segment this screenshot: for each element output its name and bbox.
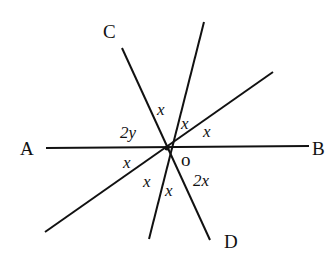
label-C: C — [103, 21, 116, 42]
angle-x-right: x — [202, 122, 211, 141]
angle-diagram: C A B D o x x x 2y x x x 2x — [0, 0, 334, 261]
line-steep — [149, 22, 204, 239]
label-O: o — [181, 149, 191, 170]
angle-x-lower-left: x — [122, 153, 131, 172]
line-shallow — [45, 72, 273, 232]
label-D: D — [224, 231, 238, 252]
line-CD — [122, 48, 210, 240]
angle-x-top: x — [156, 100, 165, 119]
angle-x-lower: x — [142, 172, 151, 191]
angle-x-bottom: x — [164, 181, 173, 200]
label-A: A — [20, 138, 34, 159]
label-B: B — [312, 138, 325, 159]
angle-x-upper-right: x — [180, 114, 189, 133]
point-O — [165, 146, 170, 151]
line-AB — [46, 146, 309, 148]
angle-2y: 2y — [120, 123, 137, 142]
angle-2x: 2x — [193, 171, 210, 190]
